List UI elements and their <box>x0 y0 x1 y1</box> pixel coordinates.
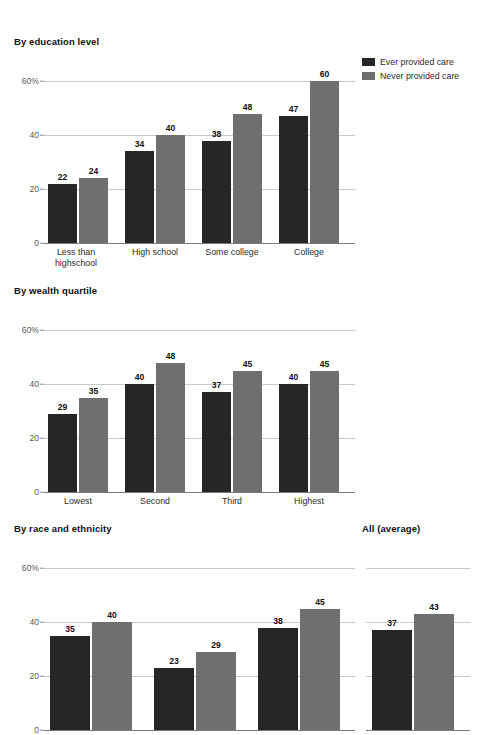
bar-never-lowest[interactable]: 35 <box>79 398 108 492</box>
ytick-60: 60% <box>22 326 44 335</box>
bar-value-ever-second: 40 <box>135 373 145 382</box>
bar-never-college[interactable]: 60 <box>310 81 339 243</box>
bar-ever-third[interactable]: 37 <box>202 392 231 492</box>
bar-group-some-college: 38 48 <box>202 68 262 243</box>
xlabel-some-college: Some college <box>188 243 276 258</box>
ytick-40: 40 <box>29 618 44 627</box>
xlabel-highest: Highest <box>265 492 353 507</box>
bar-group-less-than-highschool: 22 24 <box>48 68 108 243</box>
ytick-60: 60% <box>22 564 44 573</box>
plot-race: 60% 40 20 0 35 40 23 <box>44 555 355 730</box>
xlabel-line2: highschool <box>55 258 97 268</box>
panel-title-education: By education level <box>14 36 99 47</box>
bar-group-all-average: 37 43 <box>372 555 456 730</box>
xlabel-lowest: Lowest <box>34 492 122 507</box>
plot-education: 60% 40 20 0 22 24 34 <box>44 68 355 243</box>
panel-title-all: All (average) <box>362 523 420 534</box>
bar-group-college: 47 60 <box>279 68 339 243</box>
plot-all: 37 43 <box>366 555 470 730</box>
bar-group-race-1: 35 40 <box>50 555 134 730</box>
bars-wealth: 29 35 40 48 37 45 <box>44 317 355 492</box>
bar-value-ever-third: 37 <box>212 381 222 390</box>
bar-value-ever-all-average: 37 <box>387 619 397 628</box>
legend-swatch-never-icon <box>362 72 375 80</box>
bar-value-ever-race-1: 35 <box>65 625 75 634</box>
panel-all: All (average) <box>362 523 420 534</box>
bar-ever-some-college[interactable]: 38 <box>202 141 231 243</box>
bar-never-second[interactable]: 48 <box>156 363 185 492</box>
legend: Ever provided care Never provided care <box>362 56 459 84</box>
bar-ever-race-1[interactable]: 35 <box>50 636 90 730</box>
bar-value-never-less-than-highschool: 24 <box>89 167 99 176</box>
bar-value-never-high-school: 40 <box>166 124 176 133</box>
legend-swatch-ever-icon <box>362 58 375 66</box>
ytick-60: 60% <box>22 77 44 86</box>
ytick-40: 40 <box>29 380 44 389</box>
legend-item-never: Never provided care <box>362 70 459 82</box>
bar-never-race-1[interactable]: 40 <box>92 622 132 730</box>
bar-ever-highest[interactable]: 40 <box>279 384 308 492</box>
bar-value-ever-race-2: 23 <box>169 657 179 666</box>
panel-title-wealth: By wealth quartile <box>14 285 97 296</box>
plot-wealth: 60% 40 20 0 29 35 40 <box>44 317 355 492</box>
bar-never-less-than-highschool[interactable]: 24 <box>79 178 108 243</box>
legend-label-ever: Ever provided care <box>380 58 454 67</box>
bar-ever-race-2[interactable]: 23 <box>154 668 194 730</box>
bar-value-ever-less-than-highschool: 22 <box>58 173 68 182</box>
ytick-40: 40 <box>29 131 44 140</box>
bar-never-all-average[interactable]: 43 <box>414 614 454 730</box>
bar-value-ever-race-3: 38 <box>273 617 283 626</box>
xlabel-college: College <box>265 243 353 258</box>
bar-group-lowest: 29 35 <box>48 317 108 492</box>
ytick-20: 20 <box>29 185 44 194</box>
bar-group-third: 37 45 <box>202 317 262 492</box>
xlabel-less-than-highschool: Less than highschool <box>32 243 120 268</box>
bar-never-high-school[interactable]: 40 <box>156 135 185 243</box>
bar-never-race-2[interactable]: 29 <box>196 652 236 730</box>
bar-value-never-highest: 45 <box>320 360 330 369</box>
bar-ever-high-school[interactable]: 34 <box>125 151 154 243</box>
ytick-20: 20 <box>29 672 44 681</box>
bar-never-highest[interactable]: 45 <box>310 371 339 492</box>
bars-education: 22 24 34 40 38 48 <box>44 68 355 243</box>
bar-value-never-race-3: 45 <box>315 598 325 607</box>
xlabel-third: Third <box>188 492 276 507</box>
legend-item-ever: Ever provided care <box>362 56 459 68</box>
ytick-20: 20 <box>29 434 44 443</box>
bar-value-never-all-average: 43 <box>429 603 439 612</box>
bar-ever-college[interactable]: 47 <box>279 116 308 243</box>
bar-never-race-3[interactable]: 45 <box>300 609 340 730</box>
bar-value-ever-some-college: 38 <box>212 130 222 139</box>
bar-group-high-school: 34 40 <box>125 68 185 243</box>
bar-group-race-3: 38 45 <box>258 555 342 730</box>
panel-education: By education level <box>14 36 99 47</box>
xlabel-line1: Less than <box>57 247 95 257</box>
bar-value-never-lowest: 35 <box>89 387 99 396</box>
bar-value-never-college: 60 <box>320 70 330 79</box>
bar-value-ever-lowest: 29 <box>58 403 68 412</box>
panel-wealth: By wealth quartile <box>14 285 97 296</box>
panel-title-race: By race and ethnicity <box>14 523 112 534</box>
bar-ever-race-3[interactable]: 38 <box>258 628 298 730</box>
bars-race: 35 40 23 29 38 45 <box>44 555 355 730</box>
bar-value-ever-college: 47 <box>289 105 299 114</box>
bar-ever-lowest[interactable]: 29 <box>48 414 77 492</box>
xlabel-second: Second <box>111 492 199 507</box>
bar-ever-all-average[interactable]: 37 <box>372 630 412 730</box>
bar-group-race-2: 23 29 <box>154 555 238 730</box>
bar-value-never-race-1: 40 <box>107 611 117 620</box>
bar-value-ever-high-school: 34 <box>135 140 145 149</box>
bar-value-ever-highest: 40 <box>289 373 299 382</box>
gridline-0: 0 <box>44 730 355 731</box>
bar-ever-second[interactable]: 40 <box>125 384 154 492</box>
legend-label-never: Never provided care <box>380 72 459 81</box>
bar-group-highest: 40 45 <box>279 317 339 492</box>
bar-never-third[interactable]: 45 <box>233 371 262 492</box>
gridline-0 <box>366 730 470 731</box>
bar-value-never-second: 48 <box>166 352 176 361</box>
bar-value-never-some-college: 48 <box>243 103 253 112</box>
xlabel-high-school: High school <box>111 243 199 258</box>
bars-all: 37 43 <box>366 555 470 730</box>
bar-never-some-college[interactable]: 48 <box>233 114 262 243</box>
bar-ever-less-than-highschool[interactable]: 22 <box>48 184 77 243</box>
